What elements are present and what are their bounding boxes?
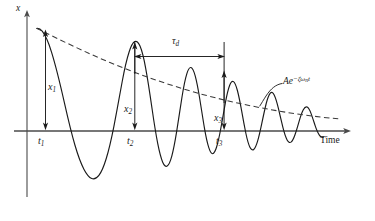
damped-response-curve (37, 28, 324, 178)
amplitude-label-x3: x3 (214, 113, 222, 125)
amplitude-label-x1-subscript: 1 (52, 86, 56, 94)
y-axis-label: x (16, 4, 20, 14)
envelope-exponent-t: t (308, 75, 310, 83)
time-label-t2-subscript: 2 (130, 140, 134, 148)
amplitude-label-x3-subscript: 3 (218, 117, 222, 125)
amplitude-label-x2-subscript: 2 (128, 108, 132, 116)
amplitude-label-x2: x2 (124, 104, 132, 116)
damped-oscillation-figure: x Time x1 x2 x3 t1 t2 t3 τd Ae−ζωnt (0, 0, 375, 221)
envelope-equation-exponent: −ζωnt (293, 75, 310, 83)
x-axis-label: Time (320, 136, 340, 146)
envelope-equation-label: Ae−ζωnt (283, 76, 310, 86)
exponential-envelope-curve (37, 28, 342, 119)
time-label-t3-subscript: 3 (219, 140, 223, 148)
damped-period-label: τd (172, 36, 179, 48)
damped-period-span (134, 42, 225, 103)
amplitude-arrow-x1 (43, 29, 48, 130)
time-label-t1-subscript: 1 (41, 140, 45, 148)
envelope-equation-base: Ae (283, 76, 293, 86)
time-label-t3: t3 (216, 136, 222, 148)
time-label-t1: t1 (38, 136, 44, 148)
amplitude-label-x1: x1 (48, 82, 56, 94)
time-label-t2: t2 (127, 136, 133, 148)
envelope-label-leader-line (260, 84, 282, 107)
plot-canvas (0, 0, 375, 221)
damped-period-label-subscript: d (176, 40, 180, 48)
